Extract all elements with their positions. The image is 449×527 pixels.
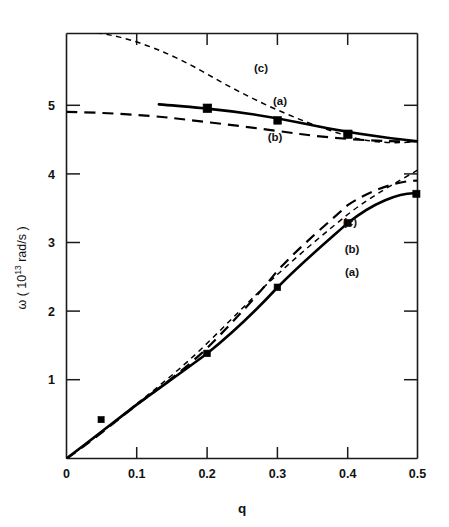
figure-background — [0, 0, 449, 527]
annotation-upper-c: (c) — [254, 62, 268, 74]
xticklabel-5: 0.5 — [409, 467, 426, 481]
data-point-marker — [204, 350, 211, 357]
yticklabel-5: 5 — [48, 99, 55, 113]
dispersion-relation-figure: 0 0.1 0.2 0.3 0.4 0.5 5 4 3 2 1 q ω ( 10… — [0, 0, 449, 527]
data-point-marker — [274, 117, 282, 125]
xticklabel-2: 0.2 — [198, 467, 215, 481]
data-point-marker — [203, 104, 212, 113]
data-point-marker — [274, 284, 281, 291]
xticklabel-1: 0.1 — [128, 467, 145, 481]
x-axis-title: q — [238, 501, 246, 516]
xticklabel-0: 0 — [63, 467, 70, 481]
y-axis-title-exponent: 13 — [13, 265, 23, 275]
yticklabel-4: 4 — [48, 168, 55, 182]
data-point-marker — [413, 190, 420, 197]
y-axis-title-units: rad/s ) — [15, 226, 29, 265]
data-point-marker — [344, 130, 352, 138]
yticklabel-1: 1 — [48, 373, 55, 387]
xticklabel-4: 0.4 — [339, 467, 356, 481]
yticklabel-2: 2 — [48, 305, 55, 319]
annotation-upper-b: (b) — [268, 131, 283, 143]
annotation-upper-a: (a) — [273, 95, 287, 107]
xticklabel-3: 0.3 — [269, 467, 286, 481]
yticklabel-3: 3 — [48, 236, 55, 250]
data-point-marker — [98, 417, 104, 423]
annotation-lower-a: (a) — [345, 266, 359, 278]
y-axis-title-main: ω ( 10 — [15, 275, 29, 310]
annotation-lower-c: (c) — [343, 216, 357, 228]
annotation-lower-b: (b) — [345, 243, 360, 255]
